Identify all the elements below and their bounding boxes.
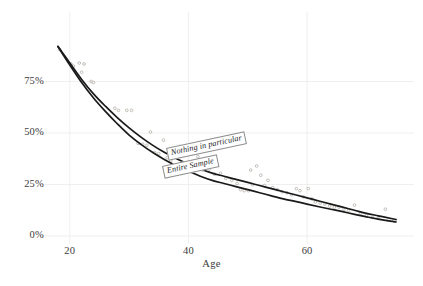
y-axis-tick-label-50: 50% xyxy=(10,126,44,137)
y-axis-tick-label-25: 25% xyxy=(10,178,44,189)
y-axis-tick-label-0: 0% xyxy=(10,229,44,240)
x-axis-tick-label-20: 20 xyxy=(50,245,90,256)
figure-container: 75% 50% 25% 0% 20 40 60 Age Nothing in p… xyxy=(0,0,423,286)
gridlines-group xyxy=(40,12,414,244)
x-axis-tick-label-60: 60 xyxy=(287,245,327,256)
x-axis-tick-label-40: 40 xyxy=(168,245,208,256)
y-axis-tick-label-75: 75% xyxy=(10,75,44,86)
x-axis-title: Age xyxy=(0,258,423,269)
